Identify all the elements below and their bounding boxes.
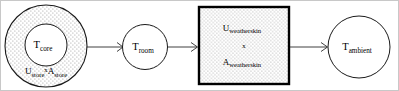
node-room: Troom (123, 25, 168, 70)
node-weatherskin: Uweatherskin x Aweatherskin (199, 7, 289, 84)
edge-weatherskin-to-ambient (290, 43, 328, 52)
room-label: Troom (132, 41, 154, 55)
ambient-label: Tambient (342, 41, 372, 55)
thermal-network-diagram: Tcore UstorexAstore Troom (0, 0, 399, 91)
diagram-canvas: Tcore UstorexAstore Troom (0, 0, 399, 91)
edge-store-to-room (87, 43, 123, 52)
node-store: Tcore UstorexAstore (5, 5, 87, 87)
node-ambient: Tambient (328, 16, 390, 78)
edge-room-to-weatherskin (168, 43, 198, 52)
